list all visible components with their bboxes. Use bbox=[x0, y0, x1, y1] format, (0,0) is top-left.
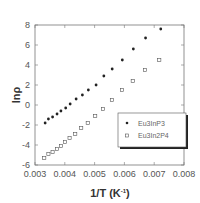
data-point-Eu3InP3 bbox=[121, 59, 124, 62]
data-point-Eu3InP3 bbox=[75, 98, 78, 101]
data-point-Eu3InP3 bbox=[87, 89, 90, 92]
data-point-Eu3InP3 bbox=[56, 113, 59, 116]
x-tick-label: 0.005 bbox=[83, 169, 106, 179]
y-tick-label: 0 bbox=[25, 100, 30, 110]
y-axis-label: lnρ bbox=[10, 87, 22, 104]
data-point-Eu3In2P4 bbox=[86, 121, 89, 124]
x-tick-label: 0.004 bbox=[54, 169, 77, 179]
y-tick-label: 8 bbox=[25, 20, 30, 30]
data-point-Eu3InP3 bbox=[69, 103, 72, 106]
y-tick-label: 6 bbox=[25, 40, 30, 50]
data-point-Eu3InP3 bbox=[64, 107, 67, 110]
data-point-Eu3In2P4 bbox=[80, 126, 83, 129]
x-tick-label: 0.007 bbox=[143, 169, 166, 179]
data-point-Eu3In2P4 bbox=[68, 136, 71, 139]
legend-box bbox=[118, 113, 186, 147]
data-point-Eu3InP3 bbox=[44, 122, 47, 125]
data-point-Eu3In2P4 bbox=[55, 147, 58, 150]
data-point-Eu3In2P4 bbox=[43, 156, 46, 159]
data-point-Eu3InP3 bbox=[111, 68, 114, 71]
x-axis-label: 1/T (K-1) bbox=[90, 187, 130, 199]
y-tick-label: -4 bbox=[22, 140, 30, 150]
y-tick-label: 4 bbox=[25, 60, 30, 70]
data-point-Eu3In2P4 bbox=[59, 144, 62, 147]
legend-label-series-2: Eu3In2P4 bbox=[138, 132, 169, 139]
data-point-Eu3InP3 bbox=[159, 28, 162, 31]
legend-label-series-1: Eu3InP3 bbox=[138, 120, 165, 127]
chart: 0.0030.0040.0050.0060.0070.008 -6-4-2024… bbox=[0, 0, 200, 203]
data-point-Eu3In2P4 bbox=[47, 152, 50, 155]
data-point-Eu3In2P4 bbox=[158, 58, 161, 61]
y-tick-label: -2 bbox=[22, 120, 30, 130]
data-point-Eu3In2P4 bbox=[74, 132, 77, 135]
data-point-Eu3InP3 bbox=[81, 94, 84, 97]
data-point-Eu3InP3 bbox=[95, 84, 98, 87]
y-tick-label: -6 bbox=[22, 160, 30, 170]
data-point-Eu3InP3 bbox=[47, 118, 50, 121]
data-point-Eu3In2P4 bbox=[110, 98, 113, 101]
data-point-Eu3In2P4 bbox=[143, 68, 146, 71]
x-tick-label: 0.008 bbox=[173, 169, 196, 179]
data-point-Eu3InP3 bbox=[51, 116, 54, 119]
legend-marker-filled-circle bbox=[126, 122, 129, 125]
data-point-Eu3In2P4 bbox=[120, 88, 123, 91]
x-tick-label: 0.006 bbox=[113, 169, 136, 179]
y-tick-label: 2 bbox=[25, 80, 30, 90]
data-point-Eu3InP3 bbox=[144, 37, 147, 40]
legend: Eu3InP3 Eu3In2P4 bbox=[118, 113, 188, 149]
data-point-Eu3InP3 bbox=[60, 110, 63, 113]
data-point-Eu3In2P4 bbox=[131, 79, 134, 82]
data-point-Eu3In2P4 bbox=[63, 140, 66, 143]
data-point-Eu3InP3 bbox=[102, 75, 105, 78]
data-point-Eu3InP3 bbox=[132, 48, 135, 51]
data-point-Eu3In2P4 bbox=[94, 114, 97, 117]
data-point-Eu3In2P4 bbox=[101, 107, 104, 110]
data-point-Eu3In2P4 bbox=[51, 150, 54, 153]
x-tick-label: 0.003 bbox=[24, 169, 47, 179]
